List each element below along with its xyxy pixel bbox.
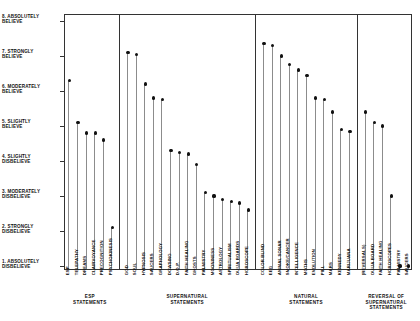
data-point-marker [152,96,155,99]
category-label: PRECOGNITION [100,240,104,275]
category-label: D.O.P. [176,262,180,275]
group-separator [357,14,358,270]
data-stem [86,133,87,269]
category-label: DOWSING [167,253,171,275]
data-point-marker [390,194,393,197]
group-separator [255,14,256,270]
category-label: KENNEDY [338,253,342,275]
group-separator [119,14,120,270]
data-stem [263,44,264,269]
data-point-marker [102,138,105,141]
data-stem [68,81,69,270]
category-label: PSYCHOKINESIS [109,238,113,275]
category-label: SPIRITUALISM [228,243,232,275]
group-caption-line: STATEMENTS [50,300,130,306]
category-label: EEG [269,266,273,276]
data-stem [323,100,324,269]
category-label: MOTHS [303,259,307,275]
group-caption: REVERSAL OFSUPERNATURALSTATEMENTS [346,294,420,311]
category-label: MOONINESS [210,248,214,276]
data-point-marker [94,131,97,134]
data-point-marker [68,79,71,82]
category-label: FAITH HEALING [379,240,383,275]
data-point-marker [144,82,147,85]
data-point-marker [364,110,367,113]
data-stem [136,54,137,269]
data-stem [77,123,78,270]
category-label: SOUL [133,263,137,276]
category-label: HOROSCOPES [388,243,392,275]
category-label: GHOSTS [193,256,197,275]
category-label: ESP [66,266,70,275]
group-caption-line: STATEMENTS [147,300,227,306]
data-point-marker [76,121,79,124]
data-stem [170,151,171,270]
y-axis-tick-label: 4. SLIGHTLYDISBELIEVE [2,154,58,165]
data-stem [196,165,197,270]
data-point-marker [314,96,317,99]
data-stem [332,112,333,269]
data-stem [179,152,180,269]
category-label: MARIJUANA [346,248,350,275]
category-label: FAITH HEALING [184,240,188,275]
category-label: SAUCERS [405,253,409,275]
category-label: ANIMAL SONAR [278,240,282,275]
category-label: CLAIRVOYANCE [91,240,95,276]
data-point-marker [187,152,190,155]
data-point-marker [262,42,265,45]
data-point-marker [126,51,129,54]
category-label: TELEPATHY [74,249,78,275]
data-stem [144,84,145,269]
category-label: OUIJA BOARDS [236,241,240,276]
data-point-marker [305,74,308,77]
data-point-marker [297,68,300,71]
data-point-marker [373,121,376,124]
category-label: HOROSCOPE [245,246,249,275]
y-axis-tick-label: 3. MODERATELYDISBELIEVE [2,189,58,200]
data-point-marker [178,151,181,154]
y-axis-tick-label: 6. MODERATELYBELIEVE [2,84,58,95]
data-stem [340,130,341,270]
group-caption: SUPERNATURALSTATEMENTS [147,294,227,305]
belief-scale-chart: 8. ABSOLUTELYBELIEVE7. STRONGLYBELIEVE6.… [0,0,420,321]
category-label: DREAMS [83,256,87,276]
group-caption-line: STATEMENTS [266,300,346,306]
data-point-marker [85,131,88,134]
category-label: GOD [124,265,128,275]
data-point-marker [348,130,351,133]
data-point-marker [204,191,207,194]
y-axis-tick-label: 1. ABSOLUTELYDISBELIEVE [2,259,58,270]
data-stem [280,56,281,269]
data-stem [272,46,273,270]
category-label: EVOLUTION [312,249,316,275]
data-point-marker [230,200,233,203]
group-caption: ESPSTATEMENTS [50,294,130,305]
category-label: SMOKE/CANCER [286,238,290,275]
category-label: INTELLIGENCE [295,242,299,275]
category-label: MARS [329,262,333,275]
data-point-marker [135,53,138,56]
category-label: HYPNOSIS [141,252,145,275]
data-point-marker [169,149,172,152]
group-caption: NATURALSTATEMENTS [266,294,346,305]
data-stem [306,75,307,269]
data-point-marker [280,54,283,57]
category-label: ASTROLOGY [219,247,223,276]
data-stem [153,98,154,269]
y-axis-tick-label: 8. ABSOLUTELYBELIEVE [2,14,58,25]
group-caption-line: STATEMENTS [346,305,420,311]
category-label: PILL [321,265,325,275]
category-label: GRAPHOLOGY [159,243,163,276]
data-stem [127,53,128,270]
data-point-marker [212,194,215,197]
y-axis-tick-label: 5. SLIGHTLYBELIEVE [2,119,58,130]
category-label: PALMISTRY [202,250,206,276]
y-axis-tick-label: 2. STRONGLYDISBELIEVE [2,224,58,235]
category-label: (REVERSALS) [362,245,366,276]
data-stem [315,98,316,269]
category-label: PALMISTRY [396,250,400,276]
category-label: OUIJA BOARD [371,244,375,276]
data-stem [297,70,298,269]
data-point-marker [111,226,114,229]
category-label: COLOR BLIND [260,244,264,276]
